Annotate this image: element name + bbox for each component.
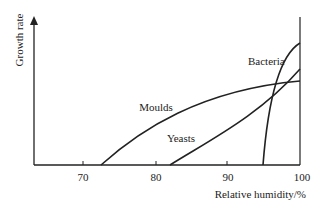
- x-tick-label: 90: [223, 171, 235, 183]
- x-axis-label: Relative humidity/%: [215, 188, 306, 200]
- moulds-label: Moulds: [139, 101, 173, 113]
- x-tick-label: 100: [294, 171, 311, 183]
- moulds-curve: [101, 81, 300, 165]
- yeasts-label: Yeasts: [167, 132, 195, 144]
- x-tick-label: 70: [78, 171, 90, 183]
- bacteria-label: Bacteria: [248, 55, 285, 67]
- y-axis-arrow-icon: [30, 16, 38, 25]
- x-tick-label: 80: [151, 171, 163, 183]
- growth-rate-chart: 70 80 90 100 Relative humidity/% Growth …: [0, 0, 326, 205]
- y-axis-label: Growth rate: [13, 13, 25, 66]
